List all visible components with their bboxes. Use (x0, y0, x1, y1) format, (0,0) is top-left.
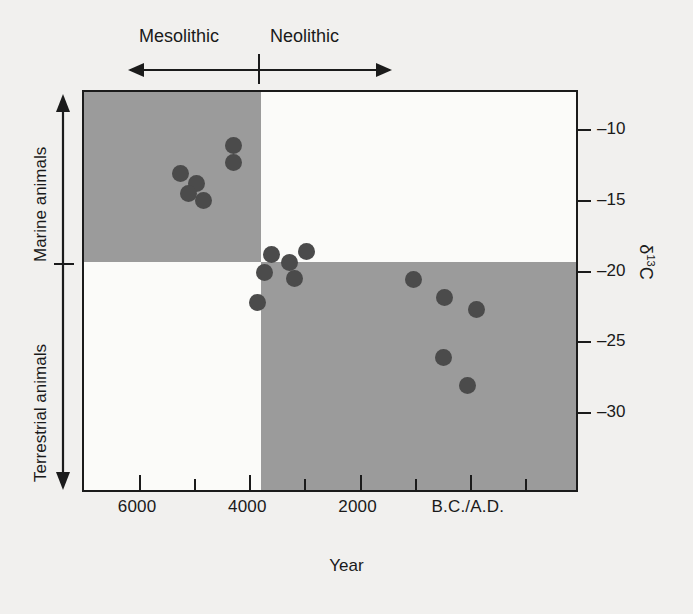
x-axis-title: Year (0, 556, 693, 576)
y-tick (578, 271, 591, 273)
y-tick-label: –20 (597, 261, 625, 281)
x-tick (415, 479, 417, 490)
shaded-quadrant-neolithic-terrestrial (261, 262, 576, 490)
period-arrow-icon (110, 52, 410, 88)
data-point (405, 271, 422, 288)
x-tick (470, 475, 472, 490)
y-tick (578, 412, 591, 414)
data-point (249, 294, 266, 311)
plot-area (82, 90, 578, 492)
y-tick (578, 200, 591, 202)
data-point (256, 264, 273, 281)
diet-label-marine: Marine animals (31, 147, 51, 262)
diet-arrow-icon (52, 92, 74, 492)
y-tick-label: –25 (597, 331, 625, 351)
x-tick (249, 475, 251, 490)
y-tick (578, 129, 591, 131)
data-point (263, 246, 280, 263)
data-point (286, 270, 303, 287)
y-tick-label: –30 (597, 402, 625, 422)
x-tick-label: 6000 (118, 497, 157, 517)
period-label-mesolithic: Mesolithic (139, 26, 219, 47)
y-axis-title: δ13C (635, 244, 657, 279)
data-point (281, 254, 298, 271)
data-point (298, 243, 315, 260)
y-tick (578, 341, 591, 343)
x-tick (194, 479, 196, 490)
x-tick-label: 4000 (228, 497, 267, 517)
y-tick-label: –10 (597, 119, 625, 139)
data-point (459, 377, 476, 394)
x-tick (304, 479, 306, 490)
x-tick-label: B.C./A.D. (431, 497, 504, 517)
diet-label-terrestrial: Terrestrial animals (31, 344, 51, 482)
data-point (435, 349, 452, 366)
x-tick (360, 475, 362, 490)
x-tick (525, 479, 527, 490)
x-tick (139, 475, 141, 490)
x-tick-label: 2000 (338, 497, 377, 517)
y-tick-label: –15 (597, 190, 625, 210)
period-label-neolithic: Neolithic (270, 26, 339, 47)
scatter-chart-figure: Mesolithic Neolithic Marine animals Terr… (0, 0, 693, 614)
